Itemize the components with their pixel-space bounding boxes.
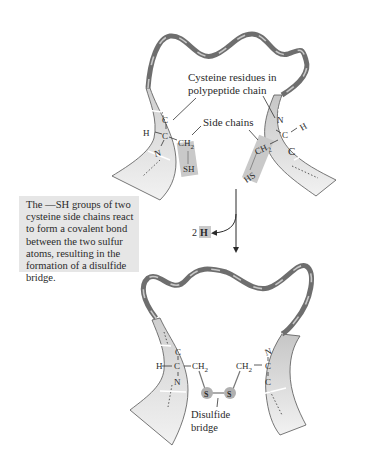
label-bridge: bridge (191, 422, 218, 433)
label-disulfide: Disulfide (191, 409, 230, 420)
svg-text:C: C (265, 377, 271, 387)
svg-text:CH2: CH2 (192, 361, 209, 374)
svg-text:C: C (162, 115, 168, 125)
svg-text:N: N (174, 377, 181, 387)
left-strand (112, 88, 176, 200)
svg-text:C: C (288, 145, 295, 157)
label-cysteine-residues: Cysteine residues in (188, 71, 277, 83)
svg-text:SH: SH (183, 164, 195, 174)
svg-text:H: H (143, 128, 150, 138)
svg-text:CH2: CH2 (236, 361, 253, 374)
svg-text:N: N (277, 115, 284, 125)
label-polypeptide-chain: polypeptide chain (188, 84, 267, 96)
svg-text:H: H (156, 361, 163, 371)
caption-text: The —SH groups of two cysteine side chai… (26, 199, 144, 284)
byproduct-atom: H (200, 227, 208, 238)
svg-text:H: H (298, 121, 309, 133)
bottom-right-cysteine: N C C CH2 (236, 346, 273, 387)
svg-text:C: C (265, 361, 271, 371)
label-side-chains: Side chains (203, 116, 253, 128)
svg-text:C: C (282, 130, 288, 140)
svg-text:C: C (174, 361, 180, 371)
disulfide-bridge-figure: Cysteine residues in polypeptide chain S… (0, 0, 366, 455)
byproduct-count: 2 (192, 227, 197, 238)
right-strand-bottom (266, 334, 306, 435)
reaction-arrow: 2 H (192, 189, 236, 250)
ribbon-loop-bottom (143, 266, 311, 334)
right-strand (265, 95, 336, 196)
sulfur-right-label: S (227, 390, 232, 399)
svg-text:C: C (162, 131, 168, 141)
sulfur-left-label: S (204, 390, 209, 399)
svg-text:C: C (175, 347, 181, 357)
